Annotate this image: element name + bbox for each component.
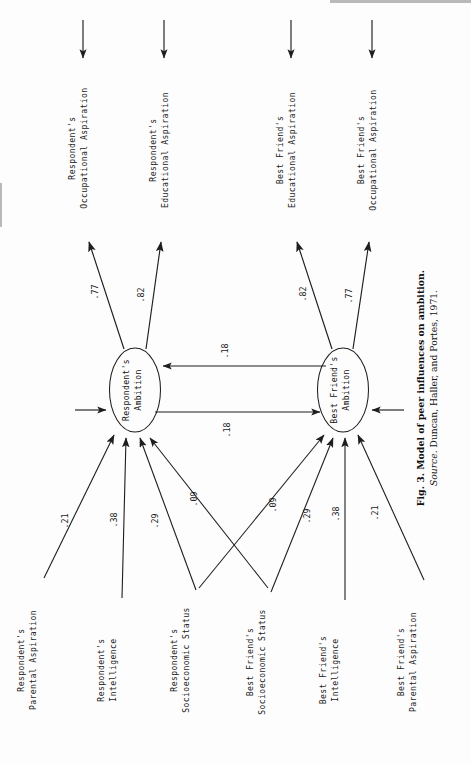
label-resp-occ-asp-line1: Respondent's xyxy=(67,116,77,179)
node-respondent-ambition-line2: Ambition xyxy=(133,369,143,410)
coef-bf-occ-asp: .77 xyxy=(344,288,354,303)
label-bf-edu-asp-line1: Best Friend's xyxy=(275,116,285,185)
scan-artifact-left xyxy=(0,183,2,227)
label-resp-edu-asp-line1: Respondent's xyxy=(148,118,158,181)
coef-resp-occ-asp: .77 xyxy=(90,284,100,299)
label-bf-ses-line1: Best Friend's xyxy=(245,628,255,697)
svg-text:Source. Duncan, Haller, and Po: Source. Duncan, Haller, and Portes, 1971… xyxy=(428,290,439,486)
coef-bf-ses: .29 xyxy=(302,508,312,523)
label-bf-occ-asp-line2: Occupational Aspiration xyxy=(368,89,378,210)
node-respondent-ambition[interactable]: Respondent's Ambition xyxy=(110,348,161,432)
coef-resp-ses: .29 xyxy=(150,513,160,528)
coef-resp-intelligence: .38 xyxy=(109,512,119,527)
label-bf-parental-asp-line1: Best Friend's xyxy=(396,628,406,697)
label-resp-parental-asp-line2: Parental Aspiration xyxy=(28,610,38,710)
path-bf-ambition-to-bf-occ-asp xyxy=(353,242,369,349)
path-resp-parental-asp xyxy=(44,435,114,578)
coef-bf-parental-asp: .21 xyxy=(370,505,380,520)
label-bf-parental-asp-line2: Parental Aspiration xyxy=(408,612,418,712)
coef-bf-edu-asp: .82 xyxy=(298,286,308,301)
label-bf-occ-asp-line1: Best Friend's xyxy=(356,116,366,185)
label-bf-edu-asp-line2: Educational Aspiration xyxy=(287,92,297,208)
label-resp-ses-line1: Respondent's xyxy=(169,628,179,691)
path-diagram: Respondent's Ambition Best Friend's Ambi… xyxy=(0,0,471,765)
label-resp-edu-asp-line2: Educational Aspiration xyxy=(160,92,170,208)
coef-resp-parental-asp: .21 xyxy=(60,513,70,528)
label-resp-intelligence-line1: Respondent's xyxy=(96,638,106,701)
label-bf-intelligence-line2: Intelligence xyxy=(330,638,340,701)
node-best-friend-ambition-line1: Best Friend's xyxy=(329,356,339,423)
coef-bf-to-resp: .18 xyxy=(220,343,230,358)
figure-caption-title: Fig. 3. Model of peer influences on ambi… xyxy=(415,270,426,506)
path-resp-ambition-to-resp-edu-asp xyxy=(146,242,161,349)
label-resp-parental-asp-line1: Respondent's xyxy=(16,628,26,691)
label-bf-intelligence-line1: Best Friend's xyxy=(318,636,328,705)
scan-artifact-top xyxy=(330,0,471,3)
label-resp-occ-asp-line2: Occupational Aspiration xyxy=(79,87,89,208)
node-best-friend-ambition[interactable]: Best Friend's Ambition xyxy=(318,348,369,432)
coef-bf-ses-to-resp-ambition: .09 xyxy=(268,497,278,512)
label-resp-ses-line2: Socioeconomic Status xyxy=(181,607,191,712)
figure-caption-source-label: Source. xyxy=(428,450,439,486)
coef-bf-intelligence: .38 xyxy=(331,506,341,521)
node-respondent-ambition-line1: Respondent's xyxy=(121,359,131,421)
path-resp-intelligence xyxy=(122,438,126,598)
figure-caption-source: Source. Duncan, Haller, and Portes, 1971… xyxy=(428,290,439,486)
figure-page: Respondent's Ambition Best Friend's Ambi… xyxy=(0,0,471,765)
label-bf-ses-line2: Socioeconomic Status xyxy=(257,609,267,714)
figure-caption-source-text: Duncan, Haller, and Portes, 1971. xyxy=(428,290,439,451)
coef-resp-to-bf: .18 xyxy=(222,422,232,437)
label-resp-intelligence-line2: Intelligence xyxy=(108,638,118,701)
coef-resp-edu-asp: .82 xyxy=(136,287,146,302)
node-best-friend-ambition-line2: Ambition xyxy=(341,369,351,410)
